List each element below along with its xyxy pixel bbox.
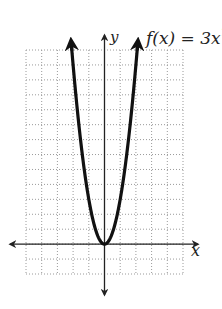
left-arrow-icon [71,41,72,50]
right-arrow-icon [137,41,138,50]
x-axis-label: x [191,241,200,260]
function-label: f(x) = 3x2 [146,26,222,48]
y-axis-label: y [110,28,118,46]
axes [10,35,198,295]
